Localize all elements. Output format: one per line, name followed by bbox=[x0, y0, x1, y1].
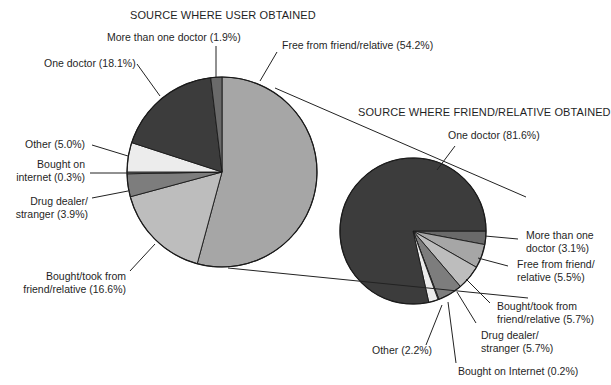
label-bought-took-line1: Bought/took from bbox=[20, 270, 126, 283]
label-bought-took: Bought/took from friend/relative (16.6%) bbox=[20, 270, 126, 296]
label-other: Other (5.0%) bbox=[25, 138, 85, 151]
left-pie-title: SOURCE WHERE USER OBTAINED bbox=[130, 9, 316, 21]
label-bought-internet-line1: Bought on bbox=[15, 158, 85, 171]
label-r-drug-line2: stranger (5.7%) bbox=[481, 342, 553, 355]
label-bought-internet: Bought on internet (0.3%) bbox=[15, 158, 85, 184]
label-r-other: Other (2.2%) bbox=[372, 344, 432, 357]
label-drug-dealer-line1: Drug dealer/ bbox=[15, 195, 88, 208]
label-r-bought-line1: Bought/took from bbox=[497, 300, 594, 313]
label-drug-dealer: Drug dealer/ stranger (3.9%) bbox=[15, 195, 88, 221]
label-r-free-line2: relative (5.5%) bbox=[517, 271, 595, 284]
label-r-one-doctor: One doctor (81.6%) bbox=[448, 129, 540, 142]
label-bought-took-line2: friend/relative (16.6%) bbox=[20, 283, 126, 296]
label-drug-dealer-line2: stranger (3.9%) bbox=[15, 208, 88, 221]
label-r-drug-line1: Drug dealer/ bbox=[481, 329, 553, 342]
label-r-free-line1: Free from friend/ bbox=[517, 258, 595, 271]
label-one-doctor: One doctor (18.1%) bbox=[44, 57, 136, 70]
label-bought-internet-line2: internet (0.3%) bbox=[15, 171, 85, 184]
label-r-more-than-one: More than one doctor (3.1%) bbox=[526, 229, 594, 255]
label-more-than-one-doctor: More than one doctor (1.9%) bbox=[107, 31, 241, 44]
label-r-more-line2: doctor (3.1%) bbox=[526, 242, 594, 255]
label-r-bought-line2: friend/relative (5.7%) bbox=[497, 313, 594, 326]
label-free-from-friend: Free from friend/relative (54.2%) bbox=[282, 39, 433, 52]
pie-friend-obtained bbox=[340, 158, 486, 304]
label-r-free: Free from friend/ relative (5.5%) bbox=[517, 258, 595, 284]
label-r-drug-dealer: Drug dealer/ stranger (5.7%) bbox=[481, 329, 553, 355]
right-pie-title: SOURCE WHERE FRIEND/RELATIVE OBTAINED bbox=[358, 106, 611, 118]
label-r-bought-internet: Bought on Internet (0.2%) bbox=[458, 365, 578, 378]
pie-user-obtained bbox=[127, 77, 317, 267]
label-r-bought-took: Bought/took from friend/relative (5.7%) bbox=[497, 300, 594, 326]
label-r-more-line1: More than one bbox=[526, 229, 594, 242]
